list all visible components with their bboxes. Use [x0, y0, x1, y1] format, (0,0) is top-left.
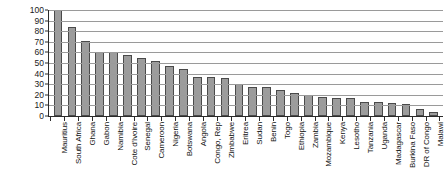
- x-axis-labels: MauritiusSouth AfricaGhanaGabonNamibiaCo…: [48, 121, 442, 191]
- x-label-slot: Cote d'Ivoire: [120, 121, 134, 191]
- bar[interactable]: [207, 77, 216, 116]
- y-tick-label: 60: [35, 48, 44, 57]
- x-label-slot: Tanzania: [356, 121, 370, 191]
- x-label-slot: Namibia: [106, 121, 120, 191]
- bar[interactable]: [416, 109, 425, 116]
- x-label-slot: South Africa: [64, 121, 78, 191]
- x-label-slot: Senegal: [134, 121, 148, 191]
- y-tick-mark: [45, 94, 48, 95]
- x-label-slot: Angola: [189, 121, 203, 191]
- bar[interactable]: [151, 61, 160, 116]
- bar[interactable]: [429, 112, 438, 116]
- bar[interactable]: [193, 77, 202, 116]
- y-axis: 0102030405060708090100: [22, 6, 44, 116]
- bar-chart: 0102030405060708090100 MauritiusSouth Af…: [0, 0, 448, 194]
- bar[interactable]: [276, 90, 285, 117]
- bar[interactable]: [235, 84, 244, 116]
- y-tick-label: 50: [35, 59, 44, 68]
- gridline: [49, 74, 443, 75]
- x-label-slot: Zambia: [301, 121, 315, 191]
- x-label-slot: Malawi: [426, 121, 440, 191]
- x-label-slot: Mauritius: [50, 121, 64, 191]
- x-label-slot: Togo: [273, 121, 287, 191]
- y-tick-mark: [45, 105, 48, 106]
- bar[interactable]: [374, 102, 383, 116]
- bar[interactable]: [137, 58, 146, 116]
- bar[interactable]: [248, 87, 257, 116]
- x-label-slot: Cameroon: [147, 121, 161, 191]
- gridline: [49, 52, 443, 53]
- x-label-slot: Zimbabwe: [217, 121, 231, 191]
- x-label-slot: Gabon: [92, 121, 106, 191]
- x-label-slot: Lesotho: [342, 121, 356, 191]
- y-tick-label: 90: [35, 16, 44, 25]
- gridline: [49, 10, 443, 11]
- bar[interactable]: [68, 27, 77, 116]
- x-label-slot: Madagascar: [384, 121, 398, 191]
- x-label-slot: DR of Congo: [412, 121, 426, 191]
- y-tick-mark: [45, 73, 48, 74]
- bar[interactable]: [332, 98, 341, 116]
- gridline: [49, 84, 443, 85]
- x-label-slot: Uganda: [370, 121, 384, 191]
- bar[interactable]: [290, 93, 299, 116]
- bar[interactable]: [346, 98, 355, 116]
- x-label-slot: Botswana: [175, 121, 189, 191]
- y-tick-mark: [45, 20, 48, 21]
- y-tick-mark: [45, 116, 48, 117]
- y-tick-label: 40: [35, 69, 44, 78]
- plot-wrapper: 0102030405060708090100 MauritiusSouth Af…: [0, 0, 448, 194]
- gridline: [49, 105, 443, 106]
- y-tick-label: 80: [35, 27, 44, 36]
- bar[interactable]: [262, 87, 271, 116]
- x-label-slot: Burkina Faso: [398, 121, 412, 191]
- x-tick-label: Malawi: [437, 122, 445, 146]
- y-tick-label: 10: [35, 101, 44, 110]
- y-tick-label: 100: [30, 6, 44, 15]
- gridline: [49, 95, 443, 96]
- bar[interactable]: [179, 69, 188, 116]
- gridline: [49, 31, 443, 32]
- y-tick-mark: [45, 52, 48, 53]
- gridline: [49, 21, 443, 22]
- x-label-slot: Nigeria: [161, 121, 175, 191]
- bar[interactable]: [318, 97, 327, 116]
- y-tick-mark: [45, 84, 48, 85]
- y-tick-label: 0: [39, 112, 44, 121]
- y-tick-mark: [45, 31, 48, 32]
- x-label-slot: Ethiopia: [287, 121, 301, 191]
- y-tick-mark: [45, 41, 48, 42]
- gridline: [49, 63, 443, 64]
- y-tick-label: 30: [35, 80, 44, 89]
- x-label-slot: Ghana: [78, 121, 92, 191]
- x-label-slot: Benin: [259, 121, 273, 191]
- x-label-slot: Sudan: [245, 121, 259, 191]
- x-label-slot: Kenya: [328, 121, 342, 191]
- y-tick-label: 70: [35, 38, 44, 47]
- x-label-slot: Mozambique: [315, 121, 329, 191]
- x-label-slot: Congo, Rep: [203, 121, 217, 191]
- y-tick-label: 20: [35, 91, 44, 100]
- gridline: [49, 42, 443, 43]
- y-tick-mark: [45, 10, 48, 11]
- y-tick-mark: [45, 63, 48, 64]
- bar[interactable]: [360, 102, 369, 116]
- plot-area: [48, 10, 443, 117]
- x-label-slot: Eritrea: [231, 121, 245, 191]
